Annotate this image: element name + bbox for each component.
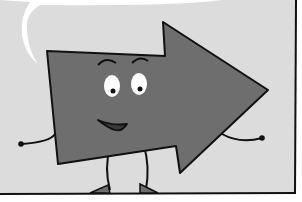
cartoon-scene (0, 0, 302, 202)
right-eye (131, 73, 147, 95)
right-hand (259, 135, 265, 141)
right-pupil (138, 87, 143, 92)
left-pupil (111, 89, 116, 94)
panel-border-right (295, 0, 296, 194)
left-eye (104, 75, 120, 97)
left-hand (18, 141, 24, 147)
